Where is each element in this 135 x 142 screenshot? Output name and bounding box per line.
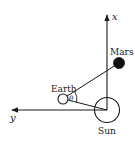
- sun-label: Sun: [98, 126, 116, 136]
- x-axis-label: x: [112, 11, 118, 22]
- orbit-diagram: x y θ Sun Earth Mars: [0, 0, 135, 142]
- earth-body: [58, 94, 68, 104]
- y-axis-label: y: [9, 112, 16, 123]
- earth-label: Earth: [51, 84, 77, 94]
- mars-body: [114, 58, 125, 69]
- mars-label: Mars: [110, 47, 134, 57]
